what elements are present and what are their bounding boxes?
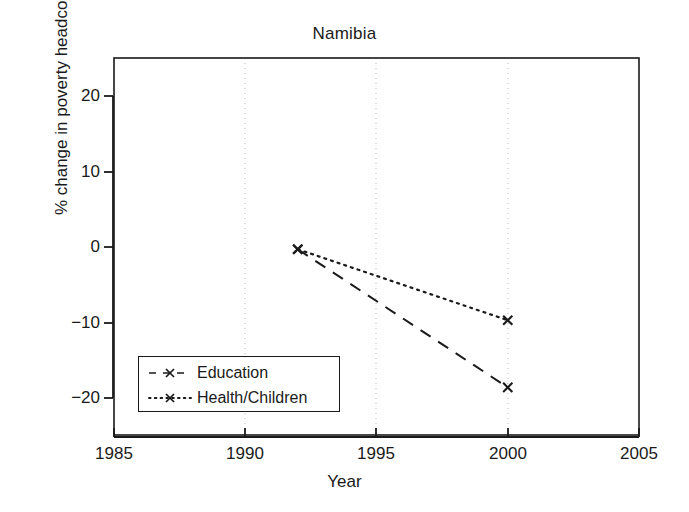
legend-item-education[interactable]: Education xyxy=(139,360,339,385)
series-health-children xyxy=(293,245,512,325)
data-point-marker[interactable] xyxy=(503,383,512,392)
data-point-marker[interactable] xyxy=(293,245,302,254)
chart-figure: Namibia % change in poverty headcount 20… xyxy=(0,0,689,512)
legend-item-health-children[interactable]: Health/Children xyxy=(139,385,339,410)
legend-key-dotted-x xyxy=(147,388,193,408)
plot-area xyxy=(0,0,689,512)
legend-label-health-children: Health/Children xyxy=(193,389,307,407)
legend-label-education: Education xyxy=(193,364,268,382)
y-axis-spine xyxy=(104,96,113,398)
chart-legend[interactable]: Education Health/Children xyxy=(138,356,340,412)
legend-key-dashed-x xyxy=(147,363,193,383)
series-line xyxy=(298,249,508,320)
